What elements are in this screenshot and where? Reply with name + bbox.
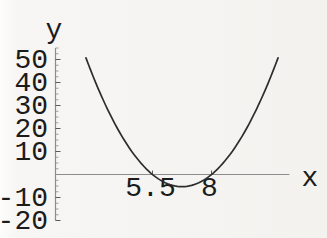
y-tick-label: -20 <box>0 206 48 237</box>
x-tick-label: 8 <box>201 173 218 204</box>
y-tick-label: 10 <box>14 137 48 168</box>
tick-labels: 5040302010-10-205.58 <box>0 45 218 237</box>
x-axis-label: x <box>302 163 319 194</box>
parabola-plot-figure: 5040302010-10-205.58 y x <box>0 0 327 238</box>
y-axis-label: y <box>46 15 63 46</box>
parabola-curve <box>86 58 278 187</box>
plot-canvas: 5040302010-10-205.58 y x <box>0 0 327 238</box>
x-tick-label: 5.5 <box>125 173 175 204</box>
